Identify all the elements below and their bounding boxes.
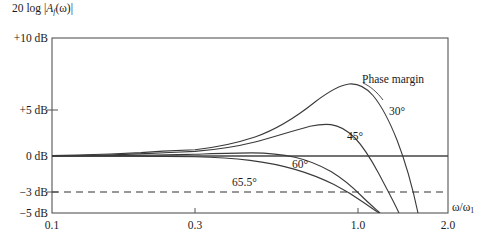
y-axis-title-prefix: 20 log | [12, 2, 46, 14]
y-tick-label-minus3: −3 dB [2, 187, 48, 199]
x-tick-marks [195, 208, 358, 213]
curve-label-30deg: 30° [389, 106, 405, 118]
x-tick-label-0p1: 0.1 [32, 220, 72, 232]
x-tick-label-2p0: 2.0 [428, 220, 468, 232]
y-tick-label-plus5: +5 dB [2, 105, 48, 117]
curve-phase-margin-65p5 [52, 156, 379, 213]
y-axis-title-suffix: (ω)| [55, 2, 73, 14]
y-tick-label-minus5: −5 dB [2, 208, 48, 220]
x-axis-title-subscript: 1 [470, 206, 474, 215]
curve-label-65p5deg: 65.5° [232, 177, 257, 189]
curve-group [52, 84, 418, 213]
curve-label-60deg: 60° [292, 159, 308, 171]
y-tick-label-plus10: +10 dB [2, 33, 48, 45]
x-axis-title: ω/ω1 [452, 202, 474, 215]
phase-margin-leader-line [363, 83, 383, 100]
x-tick-label-0p3: 0.3 [175, 220, 215, 232]
x-tick-label-1p0: 1.0 [338, 220, 378, 232]
plot-canvas [0, 0, 485, 241]
curve-label-45deg: 45° [347, 131, 363, 143]
y-axis-title: 20 log |Af(ω)| [12, 3, 73, 16]
figure-bode-magnitude-plot: 20 log |Af(ω)| +10 dB +5 dB 0 dB −3 dB −… [0, 0, 485, 241]
annotation-phase-margin: Phase margin [362, 74, 424, 86]
x-axis-title-text: ω/ω [452, 201, 470, 213]
y-tick-label-zero: 0 dB [2, 151, 48, 163]
